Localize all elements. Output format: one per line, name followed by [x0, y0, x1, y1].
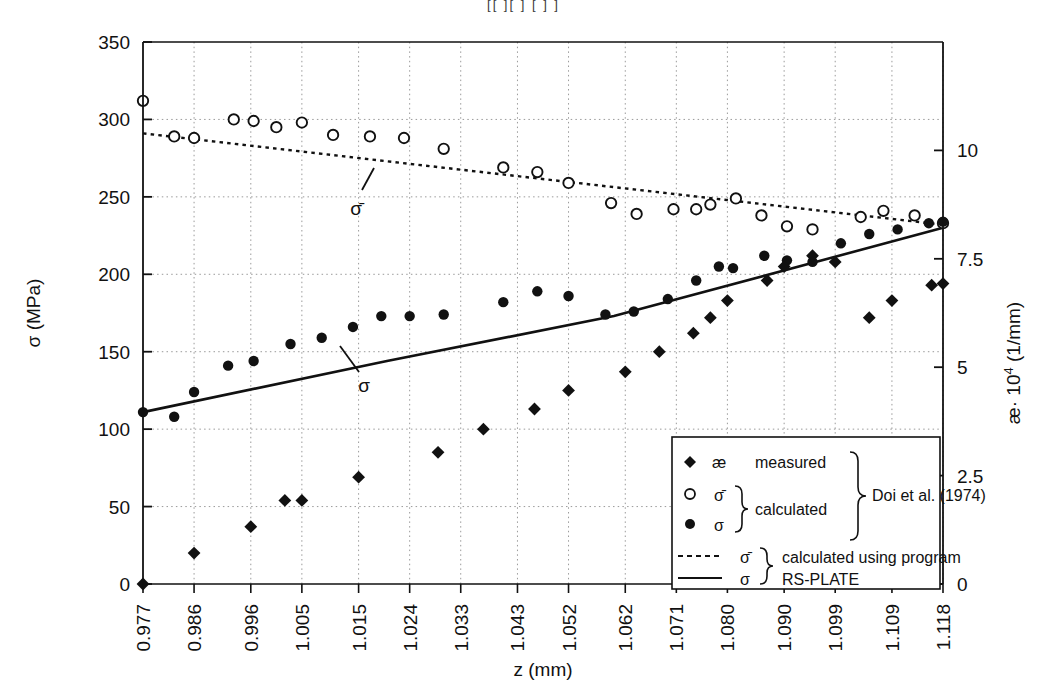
axis-title-bottom: z (mm) [513, 659, 572, 680]
marker-filled-diamond [528, 403, 541, 416]
marker-filled-circle [691, 275, 701, 285]
legend-symbol-ae: æ [712, 454, 726, 471]
axis-title-left: σ (MPa) [23, 279, 44, 348]
marker-filled-circle [924, 218, 934, 228]
marker-filled-circle [836, 238, 846, 248]
legend-label-calculated: calculated [755, 501, 827, 518]
marker-filled-circle [759, 251, 769, 261]
tick-label-bottom: 1.015 [349, 604, 370, 652]
axis-title-right-text: æ· 104 (1/mm) [1001, 302, 1024, 424]
tick-label-bottom: 1.090 [774, 604, 795, 652]
legend-marker-open-circle [685, 489, 695, 499]
marker-filled-circle [663, 294, 673, 304]
marker-filled-circle [728, 263, 738, 273]
marker-filled-circle [864, 229, 874, 239]
tick-label-right: 7.5 [957, 249, 983, 270]
marker-open-circle [189, 133, 199, 143]
marker-open-circle [756, 210, 766, 220]
tick-label-bottom: 0.986 [184, 604, 205, 652]
marker-open-circle [532, 167, 542, 177]
marker-filled-diamond [244, 520, 257, 533]
marker-filled-diamond [886, 294, 899, 307]
sigma-bar-annotation-label: σ̄ [350, 198, 365, 219]
marker-open-circle [878, 206, 888, 216]
tick-label-right: 10 [957, 140, 978, 161]
legend-label-doi: Doi et al. (1974) [872, 487, 986, 504]
marker-open-circle [498, 162, 508, 172]
marker-open-circle [271, 122, 281, 132]
legend-marker-filled-circle [685, 519, 695, 529]
marker-filled-circle [714, 261, 724, 271]
tick-label-right: 0 [957, 574, 968, 595]
sigma-bar-leader-line [362, 168, 374, 190]
tick-label-bottom: 1.043 [507, 604, 528, 652]
series-line-sigma-solid [143, 228, 943, 412]
tick-label-left: 300 [98, 109, 130, 130]
marker-open-circle [691, 204, 701, 214]
tick-label-left: 100 [98, 419, 130, 440]
marker-open-circle [909, 210, 919, 220]
tick-label-bottom: 1.109 [882, 604, 903, 652]
top-partial-text: [[ ][ ] [ ] ] [0, 0, 1047, 14]
tick-label-right: 5 [957, 357, 968, 378]
marker-open-circle [563, 178, 573, 188]
tick-label-left: 0 [119, 574, 130, 595]
legend-label-measured: measured [755, 454, 826, 471]
marker-filled-diamond [278, 494, 291, 507]
tick-label-bottom: 1.080 [717, 604, 738, 652]
tick-label-bottom: 1.071 [666, 604, 687, 652]
marker-filled-circle [248, 356, 258, 366]
axis-title-right-unit: (1/mm) [1003, 302, 1024, 367]
tick-label-bottom: 0.996 [241, 604, 262, 652]
marker-open-circle [229, 114, 239, 124]
marker-filled-diamond [352, 471, 365, 484]
axis-title-right: æ· 104 (1/mm) [1001, 302, 1024, 424]
marker-filled-diamond [925, 279, 938, 292]
tick-label-left: 350 [98, 32, 130, 53]
marker-open-circle [606, 198, 616, 208]
tick-label-right: 2.5 [957, 466, 983, 487]
marker-filled-diamond [477, 423, 490, 436]
marker-filled-circle [629, 306, 639, 316]
tick-label-bottom: 1.118 [933, 604, 954, 650]
chart-figure: [[ ][ ] [ ] ] 05010015020025030035002.55… [0, 0, 1047, 691]
marker-filled-circle [169, 412, 179, 422]
tick-label-bottom: 1.062 [615, 604, 636, 652]
marker-filled-circle [223, 360, 233, 370]
marker-open-circle [731, 193, 741, 203]
marker-open-circle [705, 199, 715, 209]
tick-label-left: 200 [98, 264, 130, 285]
chart-canvas: 05010015020025030035002.557.5100.9770.98… [0, 0, 1047, 691]
marker-open-circle [856, 212, 866, 222]
tick-label-left: 250 [98, 187, 130, 208]
marker-filled-circle [189, 387, 199, 397]
tick-label-bottom: 1.033 [451, 604, 472, 652]
tick-label-bottom: 0.977 [133, 604, 154, 652]
marker-filled-circle [317, 333, 327, 343]
marker-filled-diamond [863, 311, 876, 324]
marker-filled-diamond [432, 446, 445, 459]
marker-open-circle [439, 144, 449, 154]
marker-open-circle [631, 209, 641, 219]
tick-label-bottom: 1.005 [292, 604, 313, 652]
marker-filled-circle [404, 311, 414, 321]
marker-filled-circle [498, 297, 508, 307]
legend-label-program-line1: calculated using program [782, 549, 961, 566]
marker-filled-diamond [619, 365, 632, 378]
marker-filled-circle [376, 311, 386, 321]
annotations-group: σ̄σ [340, 168, 374, 396]
marker-filled-circle [563, 291, 573, 301]
marker-filled-circle [439, 309, 449, 319]
marker-filled-circle [285, 339, 295, 349]
marker-filled-diamond [653, 345, 666, 358]
legend-symbol-sigma-line: σ [740, 571, 750, 588]
marker-filled-circle [532, 286, 542, 296]
legend-symbol-sigma: σ [714, 517, 724, 534]
marker-open-circle [248, 116, 258, 126]
marker-open-circle [297, 117, 307, 127]
tick-label-left: 50 [109, 497, 130, 518]
legend-label-program-line2: RS-PLATE [782, 571, 859, 588]
marker-open-circle [328, 130, 338, 140]
marker-filled-diamond [687, 327, 700, 340]
marker-filled-circle [348, 322, 358, 332]
